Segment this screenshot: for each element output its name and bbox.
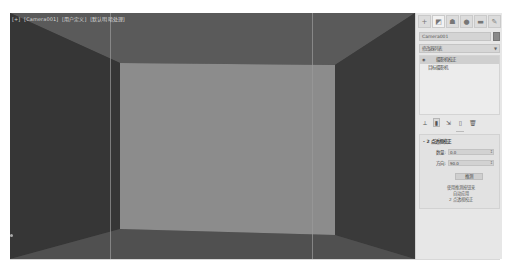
modifier-list-label: 修改器列表 [422, 46, 442, 51]
make-unique-icon[interactable]: ⇲ [445, 119, 452, 126]
bottom-divider [10, 259, 500, 260]
axis-tripod-icon [10, 234, 13, 237]
direction-label: 方向: [434, 160, 446, 166]
stack-item-camera-correction[interactable]: ◉ 摄影机校正 [420, 56, 499, 64]
amount-row: 数量: 0.0 [434, 148, 494, 155]
safe-frame-left [110, 13, 111, 259]
back-wall [120, 63, 335, 235]
show-end-result-icon[interactable]: ▮ [433, 118, 440, 127]
hint-line: 2 点透视校正 [426, 197, 496, 203]
stack-toolbar: ⟂ ▮ ⇲ ▯ 🗑 [419, 117, 500, 128]
viewport-label[interactable]: [+] [Camera001] [用户定义] [默认明暗处理] [12, 15, 127, 22]
direction-row: 方向: 90.0 [434, 159, 494, 166]
direction-spinner[interactable]: 90.0 [448, 160, 494, 166]
divider [456, 131, 464, 132]
make-unique-alt-icon[interactable]: ▯ [457, 119, 464, 126]
object-color-swatch[interactable] [493, 32, 500, 41]
hierarchy-tab-icon[interactable]: ☗ [446, 15, 459, 28]
rollout-title[interactable]: - 2 点透视校正 [420, 135, 499, 144]
modify-tab-icon[interactable]: ◩ [432, 15, 445, 28]
room-scene [10, 13, 415, 259]
remove-modifier-icon[interactable]: 🗑 [469, 119, 476, 126]
eye-icon[interactable]: ◉ [422, 56, 426, 64]
two-point-perspective-rollout: - 2 点透视校正 数量: 0.0 方向: 90.0 推测 使用推测按钮来 自动… [419, 134, 500, 209]
stack-item-label: 摄影机校正 [436, 56, 456, 64]
object-name-input[interactable]: Camera001 [419, 32, 491, 41]
display-tab-icon[interactable]: ▬ [474, 15, 487, 28]
modifier-list-dropdown[interactable]: 修改器列表 ▼ [419, 44, 500, 53]
hint-text: 使用推测按钮来 自动应用 2 点透视校正 [426, 185, 496, 203]
viewport-perspective[interactable]: [用户定义] [62, 16, 87, 22]
utilities-tab-icon[interactable]: ✎ [488, 15, 501, 28]
stack-item-label: 目标摄影机 [428, 64, 448, 72]
stack-item-target-camera[interactable]: 目标摄影机 [420, 64, 499, 72]
modifier-stack: ◉ 摄影机校正 目标摄影机 [419, 55, 500, 115]
command-panel: + ◩ ☗ ● ▬ ✎ Camera001 修改器列表 ▼ ◉ 摄影机校正 目标… [415, 13, 502, 259]
viewport-menu[interactable]: [+] [12, 16, 20, 22]
viewport-camera[interactable]: [Camera001] [24, 16, 58, 22]
chevron-down-icon: ▼ [494, 45, 497, 53]
motion-tab-icon[interactable]: ● [460, 15, 473, 28]
amount-spinner[interactable]: 0.0 [448, 149, 494, 155]
3dsmax-window: [+] [Camera001] [用户定义] [默认明暗处理] + ◩ ☗ ● … [0, 0, 508, 267]
create-tab-icon[interactable]: + [418, 15, 431, 28]
command-panel-tabs: + ◩ ☗ ● ▬ ✎ [418, 15, 501, 29]
viewport-shading[interactable]: [默认明暗处理] [90, 16, 125, 22]
guess-button[interactable]: 推测 [455, 173, 483, 180]
object-name-row: Camera001 [419, 32, 500, 41]
amount-label: 数量: [434, 149, 446, 155]
safe-frame-right [312, 13, 313, 259]
pin-stack-icon[interactable]: ⟂ [421, 119, 428, 127]
camera-viewport[interactable]: [+] [Camera001] [用户定义] [默认明暗处理] [10, 13, 415, 259]
